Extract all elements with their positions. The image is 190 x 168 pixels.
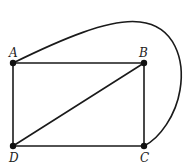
vertex-label-c: C xyxy=(140,151,149,165)
vertex-d xyxy=(10,143,16,149)
edge-d-b xyxy=(13,63,144,146)
edge-a-c-curved xyxy=(13,22,181,146)
vertex-b xyxy=(141,60,147,66)
vertex-c xyxy=(141,143,147,149)
vertex-label-b: B xyxy=(138,46,148,60)
vertex-a xyxy=(10,60,16,66)
graph-diagram: A B C D xyxy=(0,0,190,168)
vertex-label-a: A xyxy=(8,46,18,60)
vertex-label-d: D xyxy=(8,151,19,165)
